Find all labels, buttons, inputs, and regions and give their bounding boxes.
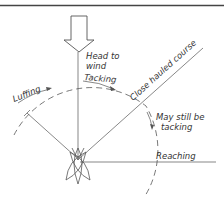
- head-to-wind-label-line2: wind: [86, 61, 107, 71]
- luffing-arrowhead: [46, 87, 52, 91]
- reaching-label: Reaching: [156, 151, 196, 161]
- close-hauled-label: Close hauled course: [128, 38, 199, 103]
- dashed-arc: [14, 88, 158, 196]
- wind-arrow-icon: [64, 16, 94, 52]
- points-of-sailing-diagram: Head to wind Tacking Luffing Close haule…: [0, 0, 224, 201]
- tacking-arrowhead: [110, 86, 116, 91]
- head-to-wind-label-line1: Head to: [86, 51, 119, 61]
- may-still-tacking-arrowhead: [150, 124, 154, 130]
- may-still-label-line1: May still be: [156, 112, 204, 122]
- luffing-line: [27, 113, 76, 157]
- luffing-label: Luffing: [11, 83, 43, 104]
- may-still-label-line2: tacking: [161, 122, 193, 132]
- tacking-label: Tacking: [84, 72, 118, 85]
